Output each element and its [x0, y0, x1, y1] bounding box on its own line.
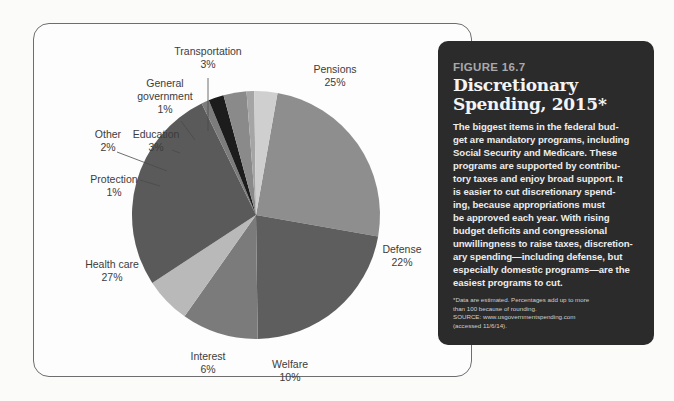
slice-value: 25% [324, 76, 345, 88]
slice-name: Health care [85, 258, 139, 270]
figure-description: The biggest items in the federal bud-get… [453, 120, 640, 289]
slice-label: Other2% [95, 128, 122, 153]
description-line: easiest programs to cut. [453, 276, 640, 289]
slice-name: General [146, 77, 183, 89]
slice-value: 1% [106, 186, 121, 198]
description-line: Social Security and Medicare. These [453, 146, 640, 159]
slice-label: Welfare10% [272, 358, 308, 383]
slice-label: Interest6% [190, 350, 225, 375]
slice-label: Defense22% [382, 243, 421, 268]
slice-name: government [137, 90, 193, 102]
slice-label: Transportation3% [174, 45, 241, 70]
footnote-line: than 100 because of rounding. [453, 305, 640, 314]
footnote-line: *Data are estimated. Percentages add up … [453, 296, 640, 305]
slice-name: Welfare [272, 358, 308, 370]
description-line: ing, because appropriations must [453, 198, 640, 211]
pie-slice-defense [256, 215, 378, 339]
slice-value: 1% [157, 103, 172, 115]
slice-label: Health care27% [85, 258, 139, 283]
figure-number: FIGURE 16.7 [453, 61, 640, 73]
description-line: budget deficits and congressional [453, 224, 640, 237]
slice-name: Defense [382, 243, 421, 255]
pie-slice-pensions [256, 93, 380, 237]
figure-title-line: Discretionary [453, 76, 640, 95]
slice-name: Transportation [174, 45, 241, 57]
slice-name: Interest [190, 350, 225, 362]
figure-caption-panel: FIGURE 16.7 Discretionary Spending, 2015… [438, 41, 654, 345]
slice-name: Education [133, 128, 180, 140]
figure-title-line: Spending, 2015* [453, 95, 640, 114]
description-line: is easier to cut discretionary spend- [453, 185, 640, 198]
slice-value: 3% [200, 58, 215, 70]
description-line: ary spending—including defense, but [453, 250, 640, 263]
figure-title: Discretionary Spending, 2015* [453, 76, 640, 114]
slice-value: 22% [391, 256, 412, 268]
footnote-line: (accessed 11/6/14). [453, 322, 640, 331]
slice-name: Pensions [313, 63, 356, 75]
slice-name: Protection [90, 173, 137, 185]
description-line: be approved each year. With rising [453, 211, 640, 224]
slice-value: 6% [200, 363, 215, 375]
slice-value: 27% [101, 271, 122, 283]
slice-label: Generalgovernment1% [137, 77, 193, 115]
description-line: The biggest items in the federal bud- [453, 120, 640, 133]
figure-footnote: *Data are estimated. Percentages add up … [453, 296, 640, 330]
slice-label: Protection1% [90, 173, 137, 198]
slice-value: 2% [100, 141, 115, 153]
description-line: especially domestic programs—are the [453, 263, 640, 276]
slice-name: Other [95, 128, 122, 140]
slice-value: 3% [148, 141, 163, 153]
description-line: unwillingness to raise taxes, discretion… [453, 237, 640, 250]
description-line: programs are supported by contribu- [453, 159, 640, 172]
slice-value: 10% [279, 371, 300, 383]
description-line: tory taxes and enjoy broad support. It [453, 172, 640, 185]
footnote-line: SOURCE: www.usgovernmentspending.com [453, 313, 640, 322]
description-line: get are mandatory programs, including [453, 133, 640, 146]
slice-label: Pensions25% [313, 63, 356, 88]
